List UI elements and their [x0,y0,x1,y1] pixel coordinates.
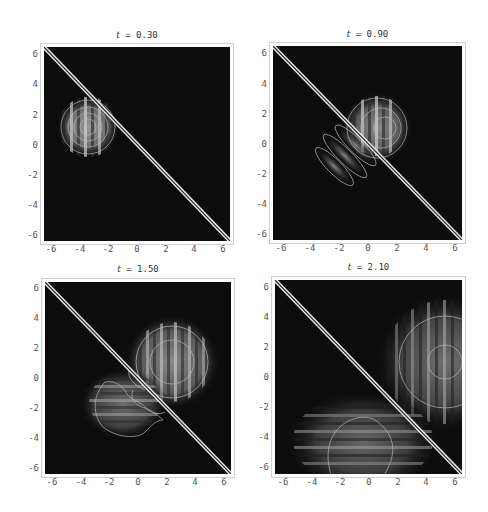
x-tick: -4 [76,477,87,487]
y-tick: -6 [28,463,39,473]
y-tick: 4 [262,79,267,89]
x-tick: 4 [191,244,196,254]
x-tick: 6 [220,244,225,254]
y-tick: 4 [34,313,39,323]
density-plot [44,47,230,241]
x-tick: 2 [395,477,400,487]
title-value: = 0.90 [350,29,388,39]
title-value: = 2.10 [351,262,389,272]
density-plot [273,46,462,240]
x-tick: 6 [452,243,457,253]
y-tick: -2 [27,170,38,180]
panel-title: t = 0.30 [40,30,234,40]
y-tick: -4 [258,432,269,442]
x-tick: 0 [134,244,139,254]
x-tick: -2 [334,243,345,253]
x-tick: -2 [335,477,346,487]
y-tick: 0 [33,140,38,150]
panel-title: t = 0.90 [269,29,466,39]
x-tick: -6 [276,243,287,253]
y-tick: 2 [262,109,267,119]
y-tick: 4 [33,79,38,89]
y-tick: -2 [256,169,267,179]
y-tick: 6 [33,49,38,59]
y-tick: 0 [264,372,269,382]
y-tick: 6 [262,48,267,58]
x-tick: -6 [46,244,57,254]
density-plot [275,280,462,474]
x-tick: -2 [103,244,114,254]
y-tick: -6 [258,462,269,472]
wavefunction-density-svg [45,282,231,474]
title-value: = 1.50 [121,264,159,274]
x-tick: 4 [423,477,428,487]
wavefunction-density-svg [44,47,230,241]
x-tick: 2 [163,244,168,254]
y-tick: 0 [262,139,267,149]
y-tick: -4 [27,200,38,210]
x-tick: 6 [221,477,226,487]
panel-title: t = 2.10 [271,262,466,272]
x-tick: -4 [75,244,86,254]
x-tick: -4 [305,243,316,253]
x-tick: 0 [135,477,140,487]
y-tick: 6 [34,283,39,293]
y-tick: -6 [27,230,38,240]
y-tick: -4 [28,433,39,443]
y-tick: 0 [34,373,39,383]
wavefunction-density-svg [275,280,462,474]
y-tick: -2 [258,402,269,412]
x-tick: -6 [47,477,58,487]
x-tick: -4 [307,477,318,487]
y-tick: 2 [33,110,38,120]
x-tick: 4 [423,243,428,253]
panel-title: t = 1.50 [41,264,235,274]
x-tick: -2 [104,477,115,487]
y-tick: 4 [264,312,269,322]
x-tick: 2 [394,243,399,253]
y-tick: -2 [28,403,39,413]
y-tick: -4 [256,199,267,209]
x-tick: 6 [452,477,457,487]
wavefunction-density-svg [273,46,462,240]
x-tick: -6 [278,477,289,487]
y-tick: -6 [256,229,267,239]
x-tick: 0 [365,243,370,253]
x-tick: 4 [192,477,197,487]
y-tick: 6 [264,282,269,292]
y-tick: 2 [264,342,269,352]
y-tick: 2 [34,343,39,353]
x-tick: 2 [164,477,169,487]
density-plot [45,282,231,474]
title-value: = 0.30 [120,30,158,40]
x-tick: 0 [366,477,371,487]
